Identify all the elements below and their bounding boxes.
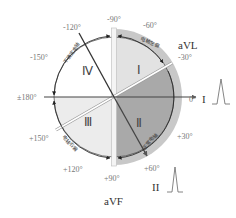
deg-m90: -90° xyxy=(107,15,121,24)
lead-label-II: II xyxy=(152,181,160,193)
ecg-axis-diagram: 不确定电轴 电轴左偏 电轴右偏 正常电轴 Ⅳ Ⅰ Ⅲ Ⅱ -90° -60° -… xyxy=(0,0,236,218)
lead-label-avl: aVL xyxy=(178,39,198,51)
qrs-waveform-lead-II-icon xyxy=(167,167,183,192)
deg-m30: -30° xyxy=(178,53,192,62)
deg-p90: +90° xyxy=(104,174,120,183)
lead-label-avf: aVF xyxy=(104,195,123,207)
deg-pm180: ±180° xyxy=(17,93,37,102)
quadrant-label-III: Ⅲ xyxy=(84,115,92,129)
deg-m150: -150° xyxy=(30,53,48,62)
deg-p120: +120° xyxy=(63,165,83,174)
quadrant-label-II: Ⅱ xyxy=(136,116,142,130)
deg-0: 0° xyxy=(189,95,196,104)
quadrant-label-I: Ⅰ xyxy=(137,63,141,77)
deg-m60: -60° xyxy=(143,21,157,30)
deg-p30: +30° xyxy=(177,132,193,141)
quadrant-label-IV: Ⅳ xyxy=(82,64,93,78)
deg-p60: +60° xyxy=(144,164,160,173)
deg-p150: +150° xyxy=(29,134,49,143)
lead-label-I: I xyxy=(202,93,206,105)
deg-m120: -120° xyxy=(63,23,81,32)
qrs-waveform-lead-I-icon xyxy=(212,79,230,104)
